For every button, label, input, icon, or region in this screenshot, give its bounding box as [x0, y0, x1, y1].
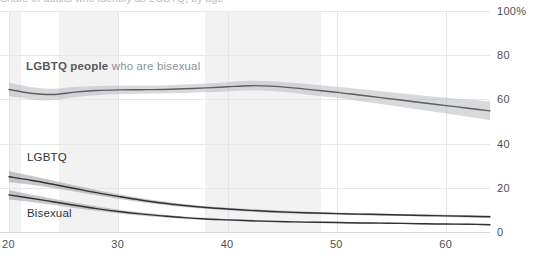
- x-axis-tick-label: 60: [439, 238, 452, 250]
- y-axis-tick-label: 40: [497, 138, 510, 150]
- series-label-lgbtq: LGBTQ: [27, 151, 67, 164]
- confidence-band: [9, 81, 490, 120]
- series-layer: [0, 0, 490, 256]
- chart-container: Share of adults who identify as LGBTQ, b…: [0, 0, 545, 256]
- series-label-lgbtq-people-who-are-bisexual: LGBTQ people who are bisexual: [26, 60, 200, 73]
- series-label-strong-text: LGBTQ people: [26, 60, 108, 72]
- plot-area: [0, 0, 490, 256]
- series-line: [9, 177, 490, 217]
- series-label-soft-text: who are bisexual: [112, 60, 201, 72]
- x-axis-tick-label: 20: [2, 238, 15, 250]
- y-axis-tick-label: 60: [497, 93, 510, 105]
- y-axis-tick-label: 20: [497, 182, 510, 194]
- y-axis-tick-label: 100%: [497, 5, 526, 17]
- y-axis-tick-label: 0: [497, 226, 503, 238]
- x-axis-tick-label: 50: [330, 238, 343, 250]
- series-label-bisexual: Bisexual: [27, 207, 72, 220]
- y-axis-tick-label: 80: [497, 49, 510, 61]
- x-axis-tick-label: 40: [221, 238, 234, 250]
- x-axis-tick-label: 30: [111, 238, 124, 250]
